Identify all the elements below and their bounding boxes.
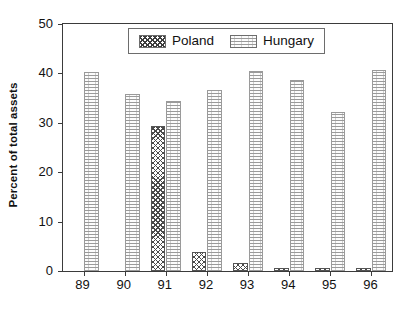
- legend-entry-hungary: Hungary: [230, 34, 314, 48]
- x-axis-tick-label: 90: [104, 278, 144, 291]
- bar-hungary-90: [125, 94, 140, 271]
- bar-hungary-95: [331, 112, 346, 271]
- bar-poland-96: [356, 268, 371, 271]
- x-axis-tick-label: 93: [227, 278, 267, 291]
- legend-label-poland: Poland: [172, 34, 214, 48]
- bar-poland-93: [233, 263, 248, 271]
- y-axis-tick: [58, 123, 63, 124]
- x-axis-tick: [166, 271, 167, 276]
- bar-poland-92: [192, 252, 207, 271]
- y-axis-tick-label: 20: [25, 165, 53, 178]
- x-axis-tick-label: 91: [145, 278, 185, 291]
- legend-entry-poland: Poland: [139, 34, 214, 48]
- y-axis-title: Percent of total assets: [0, 0, 24, 290]
- bar-hungary-93: [249, 71, 264, 271]
- y-axis-tick: [58, 24, 63, 25]
- y-axis-tick: [58, 271, 63, 272]
- y-axis-title-text: Percent of total assets: [6, 82, 18, 207]
- chart-legend: Poland Hungary: [128, 28, 325, 54]
- bar-hungary-96: [372, 70, 387, 271]
- x-axis-tick: [248, 271, 249, 276]
- x-axis-tick-label: 92: [186, 278, 226, 291]
- x-axis-tick: [125, 271, 126, 276]
- x-axis-tick: [371, 271, 372, 276]
- x-axis-tick-label: 96: [350, 278, 390, 291]
- x-axis-tick: [84, 271, 85, 276]
- y-axis-tick-label: 30: [25, 115, 53, 128]
- crosshatch-swatch-icon: [139, 35, 166, 48]
- y-axis-tick-label: 40: [25, 66, 53, 79]
- x-axis-tick-label: 89: [63, 278, 103, 291]
- bar-poland-94: [274, 268, 289, 271]
- bar-hungary-91: [166, 101, 181, 271]
- bar-hungary-94: [290, 80, 305, 271]
- y-axis-tick: [58, 172, 63, 173]
- chart-screenshot: Percent of total assets 01020304050 Pola…: [0, 0, 416, 311]
- y-axis-tick-label: 0: [25, 264, 53, 277]
- x-axis-tick: [330, 271, 331, 276]
- y-axis-tick-labels: 01020304050: [22, 0, 53, 311]
- bar-hungary-89: [84, 72, 99, 271]
- bar-hungary-92: [207, 90, 222, 271]
- bar-poland-91: [151, 126, 166, 271]
- x-axis-tick: [289, 271, 290, 276]
- y-axis-tick: [58, 222, 63, 223]
- horizontal-lines-swatch-icon: [230, 35, 257, 48]
- bar-poland-95: [315, 268, 330, 271]
- legend-label-hungary: Hungary: [263, 34, 314, 48]
- plot-area: [62, 23, 393, 272]
- x-axis-tick-label: 95: [309, 278, 349, 291]
- x-axis-tick-label: 94: [268, 278, 308, 291]
- y-axis-tick-label: 50: [25, 17, 53, 30]
- y-axis-tick: [58, 73, 63, 74]
- x-axis-tick: [207, 271, 208, 276]
- y-axis-tick-label: 10: [25, 214, 53, 227]
